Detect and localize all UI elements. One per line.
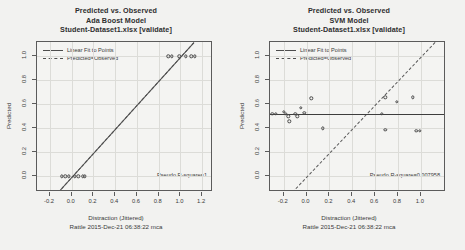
gridline-vertical <box>307 42 308 190</box>
legend-svm: Linear Fit to Points Predicted=Observed <box>276 46 351 62</box>
y-tick-label: 0.6 <box>254 99 260 107</box>
data-point <box>321 127 324 130</box>
y-tick-label: 0.8 <box>254 75 260 83</box>
gridline-vertical <box>72 42 73 190</box>
y-tick-mark <box>265 151 269 152</box>
x-tick-label: 0.0 <box>302 198 310 204</box>
x-tick-mark <box>351 192 352 196</box>
plot-area-adaboost: Linear Fit to Points Predicted=Observed … <box>36 41 212 191</box>
legend-fit-label: Linear Fit to Points <box>67 46 114 54</box>
legend-dashed-line-icon <box>43 58 63 59</box>
legend-adaboost: Linear Fit to Points Predicted=Observed <box>43 46 118 62</box>
x-axis-label-svm: Distraction (Jittered) <box>233 214 465 223</box>
gridline-vertical <box>329 42 330 190</box>
x-tick-label: 1.0 <box>175 198 183 204</box>
x-tick-label: -0.2 <box>44 198 54 204</box>
identity-line <box>292 42 436 191</box>
chart-title-line2: Ada Boost Model <box>0 16 232 26</box>
x-tick-label: 0.0 <box>67 198 75 204</box>
gridline-vertical <box>421 42 422 190</box>
x-tick-mark <box>397 192 398 196</box>
gridline-vertical <box>159 42 160 190</box>
footer-adaboost: Rattle 2015-Dec-21 06:38:22 mca <box>0 223 232 232</box>
gridline-vertical <box>352 42 353 190</box>
gridline-horizontal <box>37 152 211 153</box>
x-tick-label: 0.8 <box>154 198 162 204</box>
chart-title-line3: Student-Dataset1.xlsx [validate] <box>0 25 232 35</box>
y-tick-mark <box>265 127 269 128</box>
x-tick-label: 0.2 <box>324 198 332 204</box>
x-tick-mark <box>158 192 159 196</box>
chart-title-svm: Predicted vs. Observed SVM Model Student… <box>233 6 465 35</box>
legend-dashed-line-icon <box>276 58 296 59</box>
chart-panel-svm: Predicted vs. Observed SVM Model Student… <box>233 0 465 250</box>
y-tick-mark <box>32 151 36 152</box>
x-axis-svm: -0.20.00.20.40.60.81.0 <box>269 192 445 212</box>
gridline-horizontal <box>37 80 211 81</box>
data-point <box>287 115 290 118</box>
legend-item-identity: Predicted=Observed <box>43 54 118 62</box>
x-tick-mark <box>136 192 137 196</box>
y-tick-mark <box>265 79 269 80</box>
y-tick-label: 0.2 <box>254 147 260 155</box>
y-tick-mark <box>32 103 36 104</box>
y-tick-label: 0.4 <box>254 123 260 131</box>
y-tick-mark <box>32 55 36 56</box>
data-point <box>170 55 173 58</box>
data-point <box>288 119 291 122</box>
data-point <box>384 128 387 131</box>
x-tick-mark <box>114 192 115 196</box>
x-tick-mark <box>49 192 50 196</box>
gridline-horizontal <box>270 152 444 153</box>
data-point <box>274 112 277 115</box>
x-tick-mark <box>306 192 307 196</box>
y-tick-label: 0.2 <box>21 147 27 155</box>
legend-solid-line-icon <box>43 50 63 51</box>
y-tick-label: 0.8 <box>21 75 27 83</box>
x-tick-mark <box>420 192 421 196</box>
gridline-horizontal <box>270 56 444 57</box>
plot-area-svm: Linear Fit to Points Predicted=Observed … <box>269 41 445 191</box>
x-axis-adaboost: -0.20.00.20.40.60.81.01.2 <box>36 192 212 212</box>
x-axis-label-adaboost: Distraction (Jittered) <box>0 214 232 223</box>
gridline-horizontal <box>270 176 444 177</box>
chart-title-adaboost: Predicted vs. Observed Ada Boost Model S… <box>0 6 232 35</box>
x-tick-label: 0.4 <box>110 198 118 204</box>
legend-solid-line-icon <box>276 50 296 51</box>
gridline-vertical <box>398 42 399 190</box>
chart-panel-adaboost: Predicted vs. Observed Ada Boost Model S… <box>0 0 232 250</box>
gridline-vertical <box>137 42 138 190</box>
y-tick-mark <box>32 79 36 80</box>
x-tick-label: 0.8 <box>393 198 401 204</box>
chart-title-line1: Predicted vs. Observed <box>0 6 232 16</box>
legend-item-fit: Linear Fit to Points <box>43 46 118 54</box>
x-tick-mark <box>179 192 180 196</box>
data-point <box>77 175 80 178</box>
y-tick-label: 1.0 <box>21 51 27 59</box>
data-point <box>193 55 196 58</box>
gridline-horizontal <box>37 104 211 105</box>
data-point <box>296 115 299 118</box>
legend-item-identity: Predicted=Observed <box>276 54 351 62</box>
legend-identity-label: Predicted=Observed <box>300 54 351 62</box>
x-tick-mark <box>201 192 202 196</box>
gridline-vertical <box>180 42 181 190</box>
x-tick-mark <box>71 192 72 196</box>
x-tick-label: 1.2 <box>197 198 205 204</box>
x-tick-label: 1.0 <box>416 198 424 204</box>
y-axis-label-adaboost: Predicted <box>5 103 12 129</box>
x-tick-label: 0.6 <box>132 198 140 204</box>
y-tick-mark <box>265 175 269 176</box>
gridline-vertical <box>375 42 376 190</box>
y-tick-mark <box>265 103 269 104</box>
gridline-vertical <box>115 42 116 190</box>
x-tick-label: 0.6 <box>370 198 378 204</box>
plot-page: Predicted vs. Observed Ada Boost Model S… <box>0 0 465 250</box>
linear-fit-line <box>58 42 195 191</box>
x-tick-label: 0.4 <box>347 198 355 204</box>
data-point <box>384 95 387 98</box>
y-tick-mark <box>32 127 36 128</box>
y-tick-label: 0.0 <box>254 171 260 179</box>
data-point <box>184 55 187 58</box>
x-tick-mark <box>283 192 284 196</box>
